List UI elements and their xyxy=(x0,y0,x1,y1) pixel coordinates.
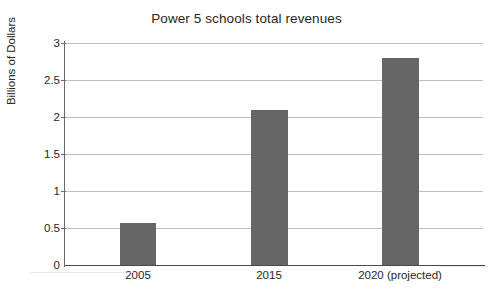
tick-mark-1 xyxy=(61,191,66,192)
bar-2015 xyxy=(251,110,288,265)
tick-mark-1-5 xyxy=(61,154,66,155)
gridline-2-5 xyxy=(65,80,483,81)
chart-title: Power 5 schools total revenues xyxy=(0,11,493,26)
y-axis-tick-labels: 3 2.5 2 1.5 1 0.5 0 xyxy=(16,43,60,265)
scan-artifact-left xyxy=(30,272,135,273)
gridline-3 xyxy=(65,43,483,44)
bar-chart: Power 5 schools total revenues Billions … xyxy=(0,0,493,298)
x-tick-2015: 2015 xyxy=(256,269,282,281)
scan-artifact-right xyxy=(440,266,488,267)
plot-area xyxy=(65,43,485,265)
tick-mark-3 xyxy=(61,43,66,44)
y-tick-1: 1 xyxy=(20,186,60,198)
tick-mark-0-5 xyxy=(61,228,66,229)
bar-2005 xyxy=(120,223,156,265)
x-axis-line xyxy=(65,265,485,266)
y-tick-0: 0 xyxy=(20,260,60,272)
y-tick-1-5: 1.5 xyxy=(20,149,60,161)
y-tick-0-5: 0.5 xyxy=(20,223,60,235)
y-tick-2-5: 2.5 xyxy=(20,75,60,87)
y-tick-2: 2 xyxy=(20,112,60,124)
y-tick-3: 3 xyxy=(20,38,60,50)
x-tick-2020-projected: 2020 (projected) xyxy=(358,269,442,281)
tick-mark-2 xyxy=(61,117,66,118)
tick-mark-2-5 xyxy=(61,80,66,81)
x-tick-2005: 2005 xyxy=(125,269,151,281)
bar-2020-projected xyxy=(382,58,419,265)
